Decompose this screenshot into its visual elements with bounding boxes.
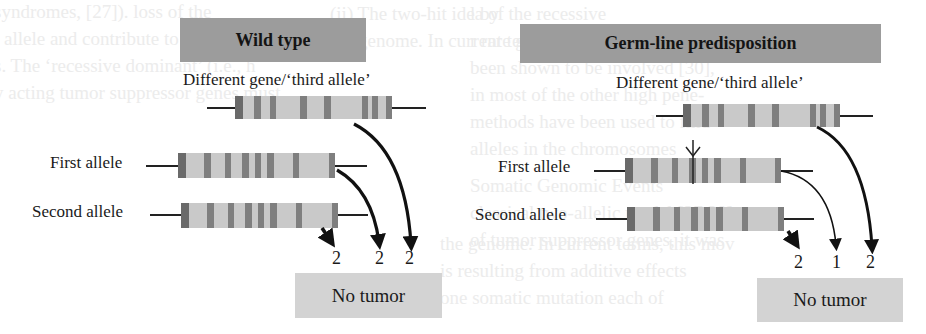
gene-flank-line <box>335 165 367 167</box>
outcome-box: No tumor <box>295 273 442 318</box>
gene-flank-line <box>392 107 426 109</box>
outcome-box: No tumor <box>757 278 903 322</box>
hit-count-second-allele: 2 <box>794 252 803 273</box>
gene-flank-line <box>596 218 628 220</box>
third-allele-caption: Different gene/‘third allele’ <box>616 73 804 93</box>
panel-title: Germ-line predisposition <box>520 24 881 63</box>
third-allele-caption: Different gene/‘third allele’ <box>183 70 371 90</box>
arrow-second-allele-icon <box>788 231 795 242</box>
gene-flank-line <box>207 107 237 109</box>
second-allele-gene <box>627 207 784 231</box>
gene-flank-line <box>594 170 626 172</box>
arrow-third-allele-icon <box>817 127 872 247</box>
gene-flank-line <box>840 115 873 117</box>
second-allele-label: Second allele <box>32 202 123 222</box>
second-allele-label: Second allele <box>475 205 566 225</box>
arrow-third-allele-icon <box>354 124 411 244</box>
gene-flank-line <box>784 218 814 220</box>
gene-flank-line <box>338 214 368 216</box>
hit-count-first-allele: 1 <box>832 252 841 273</box>
arrow-second-allele-icon <box>322 228 330 240</box>
gene-flank-line <box>150 214 182 216</box>
third-allele-gene <box>235 96 392 119</box>
hit-count-second-allele: 2 <box>332 248 341 269</box>
hit-count-third-allele: 2 <box>405 248 414 269</box>
panel-title: Wild type <box>180 18 366 62</box>
hit-count-third-allele: 2 <box>866 252 875 273</box>
first-allele-label: First allele <box>498 157 570 177</box>
second-allele-gene <box>181 203 338 228</box>
first-allele-gene <box>625 158 781 183</box>
third-allele-gene <box>683 104 840 127</box>
background-text-middle-lower: the genome. In current terms, this mov i… <box>440 230 734 311</box>
gene-flank-line <box>146 165 179 167</box>
hit-count-first-allele: 2 <box>375 248 384 269</box>
first-allele-label: First allele <box>50 153 122 173</box>
gene-flank-line <box>656 115 684 117</box>
gene-flank-line <box>781 170 813 172</box>
arrow-first-allele-icon <box>337 170 379 242</box>
first-allele-gene <box>178 153 335 178</box>
arrow-first-allele-icon <box>781 171 836 245</box>
